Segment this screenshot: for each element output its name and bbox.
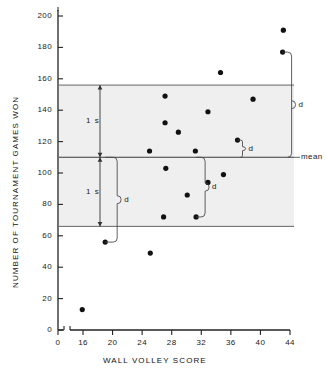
x-tick-label-16: 16 [73,339,93,347]
plot-canvas [0,0,326,371]
x-tick-label-40: 40 [250,339,270,347]
data-point [281,28,286,33]
y-tick-label-20: 20 [24,295,52,303]
data-point [162,93,167,98]
x-tick-label-20: 20 [103,339,123,347]
data-point [250,97,255,102]
deviation-label-far-upper: d [299,101,304,109]
sd-label-lower: 1 s [86,188,100,196]
y-tick-label-160: 160 [24,75,52,83]
data-point [221,172,226,177]
x-tick-label-44: 44 [280,339,300,347]
y-tick-label-180: 180 [24,43,52,51]
y-tick-label-200: 200 [24,12,52,20]
deviation-label-small-upper: d [249,145,254,153]
data-point [161,214,166,219]
data-point [193,148,198,153]
x-tick-label-36: 36 [221,339,241,347]
data-point [162,120,167,125]
y-tick-label-60: 60 [24,232,52,240]
y-tick-label-120: 120 [24,138,52,146]
x-tick-label-32: 32 [191,339,211,347]
y-tick-label-80: 80 [24,200,52,208]
mean-label: mean [301,153,323,161]
scatter-plot-figure: NUMBER OF TOURNAMENT GAMES WON WALL VOLL… [0,0,326,371]
data-point [176,130,181,135]
data-point [148,250,153,255]
data-point [218,70,223,75]
deviation-label-mid-lower: d [212,183,217,191]
data-point [185,192,190,197]
x-tick-label-24: 24 [132,339,152,347]
x-tick-label-0: 0 [48,339,68,347]
data-point [80,307,85,312]
y-tick-label-40: 40 [24,263,52,271]
data-point [147,148,152,153]
y-tick-label-100: 100 [24,169,52,177]
data-point [205,109,210,114]
x-axis-title: WALL VOLLEY SCORE [103,357,207,365]
y-tick-label-0: 0 [24,326,52,334]
y-tick-label-140: 140 [24,106,52,114]
data-point [163,166,168,171]
y-axis-title: NUMBER OF TOURNAMENT GAMES WON [12,96,20,288]
x-tick-label-28: 28 [162,339,182,347]
sd-label-upper: 1 s [86,117,100,125]
deviation-label-left-lower: d [124,196,129,204]
